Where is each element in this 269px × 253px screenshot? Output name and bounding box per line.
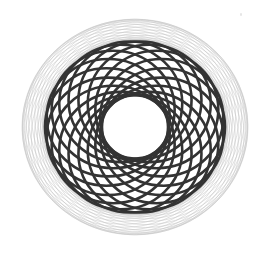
rosette-circle <box>32 19 236 214</box>
inner-dark-lattice <box>45 41 225 212</box>
rosette-drawing <box>0 0 269 253</box>
rosette-circle <box>34 40 238 235</box>
outer-faint-circles <box>22 19 248 235</box>
paper-speck <box>240 13 242 16</box>
